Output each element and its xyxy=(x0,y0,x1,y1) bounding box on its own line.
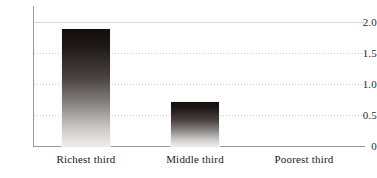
x-axis-line xyxy=(33,146,365,147)
bar-richest-third xyxy=(62,29,110,146)
y-tick-label-0: 0 xyxy=(349,141,377,152)
bar-middle-third xyxy=(171,102,219,146)
x-tick-label-poorest-third: Poorest third xyxy=(254,153,354,165)
y-axis-line xyxy=(33,6,34,147)
gridline-2-0 xyxy=(34,22,365,23)
y-tick-label-1-0: 1.0 xyxy=(349,79,377,90)
y-tick-label-1-5: 1.5 xyxy=(349,48,377,59)
x-tick-label-richest-third: Richest third xyxy=(36,153,136,165)
y-tick-label-0-5: 0.5 xyxy=(349,110,377,121)
y-tick-label-2-0: 2.0 xyxy=(349,17,377,28)
x-tick-label-middle-third: Middle third xyxy=(145,153,245,165)
bar-chart: 2.0 1.5 1.0 0.5 0 Richest third Middle t… xyxy=(0,0,377,178)
